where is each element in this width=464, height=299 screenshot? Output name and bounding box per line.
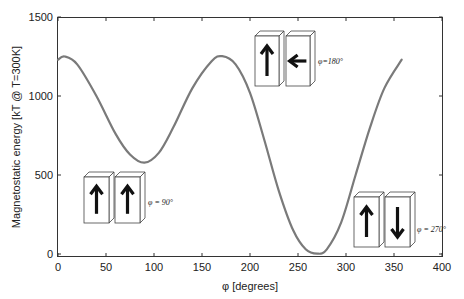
- annotation-phi-270: φ = 270°: [417, 225, 447, 234]
- x-tick-label: 400: [433, 261, 451, 273]
- x-tick-label: 150: [193, 261, 211, 273]
- magnet-box-right-phi-180: [286, 31, 315, 86]
- x-tick-label: 100: [145, 261, 163, 273]
- magnet-box-right-phi-90: [115, 172, 145, 223]
- magnet-box-left-phi-270: [354, 192, 384, 247]
- y-tick-label: 0: [47, 248, 53, 260]
- x-tick-label: 350: [385, 261, 403, 273]
- magnet-box-right-phi-270: [385, 192, 415, 247]
- x-tick-label: 50: [100, 261, 112, 273]
- x-tick-label: 300: [337, 261, 355, 273]
- y-tick-label: 500: [35, 169, 53, 181]
- x-axis-label: φ [degrees]: [222, 280, 278, 292]
- x-tick-label: 0: [55, 261, 61, 273]
- annotation-phi-180: φ=180°: [318, 57, 344, 66]
- energy-chart: 050100150200250300350400 050010001500 φ …: [0, 0, 464, 299]
- energy-curve: [58, 56, 402, 254]
- y-tick-label: 1000: [29, 90, 53, 102]
- magnet-box-left-phi-90: [84, 172, 114, 223]
- magnet-box-left-phi-180: [255, 31, 284, 86]
- annotation-phi-90: φ = 90°: [148, 198, 174, 207]
- y-tick-label: 1500: [29, 11, 53, 23]
- x-tick-label: 200: [241, 261, 259, 273]
- x-tick-label: 250: [289, 261, 307, 273]
- y-axis-label: Magnetostatic energy [kT @ T=300K]: [10, 46, 22, 228]
